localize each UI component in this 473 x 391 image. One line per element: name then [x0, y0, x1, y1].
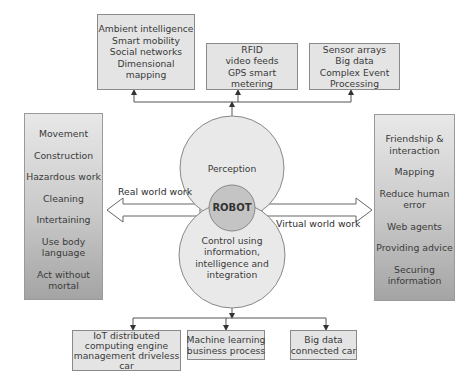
box-line: Big data	[335, 55, 373, 66]
box-line: IoT distributed	[93, 331, 160, 341]
box-line: Sensor arrays	[323, 44, 386, 55]
control-line: intelligence and	[182, 258, 282, 269]
panel-item: Friendship &	[385, 133, 443, 145]
panel-item: Construction	[34, 150, 93, 162]
panel-item: Movement	[39, 128, 88, 140]
perception-label: Perception	[192, 163, 272, 174]
real-world-label: Real world work	[118, 186, 192, 197]
panel-item: information	[388, 275, 442, 287]
panel-item: Intertaining	[36, 214, 90, 226]
panel-item: mortal	[48, 280, 79, 292]
box-line: RFID	[241, 44, 262, 55]
box-line: Complex Event	[320, 67, 390, 78]
bottom-connector	[133, 308, 326, 328]
virtual-world-label: Virtual world work	[276, 218, 360, 229]
panel-item: Act without	[37, 269, 90, 281]
real-world-arrow	[107, 198, 200, 222]
top-box-rfid: RFID video feeds GPS smart metering	[206, 43, 298, 90]
panel-item: Mapping	[395, 166, 435, 178]
box-line: Social networks	[110, 46, 182, 57]
panel-item: error	[403, 199, 426, 211]
control-line: Control using	[182, 235, 282, 246]
panel-item: Hazardous work	[26, 171, 101, 183]
panel-item: Reduce human	[380, 188, 450, 200]
box-line: business process	[187, 345, 265, 356]
panel-item: Providing advice	[376, 242, 453, 254]
panel-item: Web agents	[387, 221, 442, 233]
bottom-box-ml: Machine learning business process	[187, 330, 265, 360]
bottom-box-bigdata: Big data connected car	[290, 330, 357, 360]
real-world-panel: Movement Construction Hazardous work Cle…	[24, 113, 103, 300]
control-line: information,	[182, 246, 282, 257]
robot-label: ROBOT	[202, 202, 262, 213]
box-line: Ambient intelligence	[99, 23, 194, 34]
panel-item: Cleaning	[43, 193, 84, 205]
bottom-box-iot: IoT distributed computing engine managem…	[72, 330, 181, 371]
box-line: Smart mobility	[112, 35, 180, 46]
box-line: GPS smart	[228, 67, 276, 78]
virtual-world-panel: Friendship & interaction Mapping Reduce …	[374, 114, 455, 301]
top-connector	[134, 92, 351, 116]
panel-item: Securing	[394, 264, 435, 276]
box-line: management driveless	[74, 351, 180, 361]
box-line: Dimensional	[117, 58, 174, 69]
box-line: Big data	[304, 334, 342, 345]
control-line: integration	[182, 269, 282, 280]
box-line: Machine learning	[187, 334, 266, 345]
box-line: video feeds	[225, 55, 278, 66]
box-line: connected car	[291, 345, 357, 356]
panel-item: interaction	[389, 145, 439, 157]
box-line: computing engine	[85, 341, 168, 351]
box-line: Processing	[330, 78, 379, 89]
box-line: mapping	[126, 69, 166, 80]
panel-item: language	[42, 247, 85, 259]
box-line: metering	[231, 78, 273, 89]
top-box-ambient: Ambient intelligence Smart mobility Soci…	[97, 14, 195, 90]
panel-item: Use body	[42, 236, 85, 248]
control-label: Control using information, intelligence …	[182, 235, 282, 281]
top-box-sensor: Sensor arrays Big data Complex Event Pro…	[309, 43, 400, 90]
box-line: car	[119, 361, 133, 371]
